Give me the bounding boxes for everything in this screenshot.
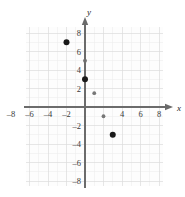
- x-tick-label: –6: [24, 109, 34, 119]
- x-tick-label: 8: [157, 109, 161, 119]
- scatter-plot-svg: –8–6–4–2468 8642–2–4–6–8 x y: [0, 0, 185, 197]
- x-tick-label: –4: [43, 109, 53, 119]
- x-axis-label: x: [176, 103, 181, 113]
- y-tick-label: –2: [72, 121, 82, 131]
- data-point: [102, 114, 106, 118]
- x-tick-label: –8: [6, 109, 16, 119]
- y-tick-label: 2: [77, 84, 81, 94]
- y-tick-label: –6: [72, 158, 82, 168]
- data-point: [83, 59, 87, 63]
- x-tick-label: 6: [138, 109, 142, 119]
- y-tick-label: –4: [72, 139, 82, 149]
- y-tick-label: 8: [77, 28, 81, 38]
- coordinate-plane-figure: –8–6–4–2468 8642–2–4–6–8 x y: [0, 0, 185, 197]
- data-point: [92, 91, 96, 95]
- y-axis-label: y: [86, 7, 91, 17]
- data-point: [64, 39, 70, 45]
- data-point: [110, 132, 116, 138]
- data-point: [82, 76, 88, 82]
- y-tick-label: –8: [72, 176, 82, 186]
- y-tick-label: 6: [77, 47, 81, 57]
- x-tick-label: –2: [61, 109, 71, 119]
